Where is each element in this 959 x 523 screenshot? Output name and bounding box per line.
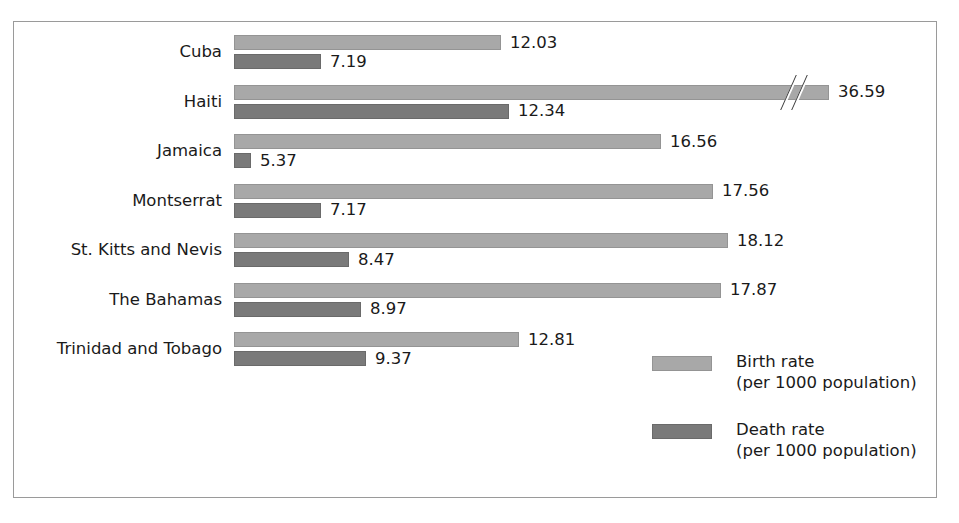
bar-row: Jamaica16.565.37: [14, 134, 936, 168]
bar-birth-rate[interactable]: [234, 134, 661, 149]
bar-value-label: 16.56: [670, 134, 717, 151]
bar-value-label: 7.19: [330, 54, 367, 71]
bar-value-label: 12.81: [528, 332, 575, 349]
bar-row: Haiti36.5912.34: [14, 85, 936, 119]
category-label-st-kitts-and-nevis: St. Kitts and Nevis: [71, 242, 222, 259]
bar-value-label: 17.56: [722, 183, 769, 200]
legend-swatch-birth-rate: [652, 356, 712, 371]
bar-value-label: 12.03: [510, 35, 557, 52]
bar-value-label: 7.17: [330, 202, 367, 219]
bar-value-label: 18.12: [737, 233, 784, 250]
bar-value-label: 9.37: [375, 351, 412, 368]
legend-label-death-rate: Death rate (per 1000 population): [736, 419, 917, 461]
bar-row: St. Kitts and Nevis18.128.47: [14, 233, 936, 267]
bar-birth-rate[interactable]: [234, 184, 713, 199]
bar-death-rate[interactable]: [234, 153, 251, 168]
chart-frame: Cuba12.037.19Haiti36.5912.34Jamaica16.56…: [13, 21, 937, 498]
legend-label-birth-rate-unit: (per 1000 population): [736, 372, 917, 393]
legend-swatch-death-rate: [652, 424, 712, 439]
bar-death-rate[interactable]: [234, 54, 321, 69]
category-label-jamaica: Jamaica: [157, 143, 222, 160]
bar-birth-rate[interactable]: [234, 283, 721, 298]
category-label-haiti: Haiti: [184, 94, 222, 111]
bar-birth-rate[interactable]: [234, 35, 501, 50]
bar-value-label: 12.34: [518, 103, 565, 120]
bar-birth-rate[interactable]: [234, 332, 519, 347]
bar-birth-rate[interactable]: [234, 233, 728, 248]
legend-label-death-rate-title: Death rate: [736, 419, 917, 440]
bar-death-rate[interactable]: [234, 351, 366, 366]
bar-birth-rate[interactable]: [234, 85, 829, 100]
bar-row: Cuba12.037.19: [14, 35, 936, 69]
category-label-montserrat: Montserrat: [132, 193, 222, 210]
category-label-trinidad-and-tobago: Trinidad and Tobago: [57, 341, 222, 358]
bar-death-rate[interactable]: [234, 203, 321, 218]
category-label-the-bahamas: The Bahamas: [109, 292, 222, 309]
bar-value-label: 5.37: [260, 153, 297, 170]
legend-label-birth-rate: Birth rate (per 1000 population): [736, 351, 917, 393]
legend-label-death-rate-unit: (per 1000 population): [736, 440, 917, 461]
bar-death-rate[interactable]: [234, 104, 509, 119]
bar-row: The Bahamas17.878.97: [14, 283, 936, 317]
category-label-cuba: Cuba: [179, 44, 222, 61]
bar-value-label: 17.87: [730, 282, 777, 299]
bar-death-rate[interactable]: [234, 302, 361, 317]
bar-value-label: 36.59: [838, 84, 885, 101]
bar-row: Montserrat17.567.17: [14, 184, 936, 218]
legend-label-birth-rate-title: Birth rate: [736, 351, 917, 372]
bar-value-label: 8.97: [370, 301, 407, 318]
bar-value-label: 8.47: [358, 252, 395, 269]
bar-death-rate[interactable]: [234, 252, 349, 267]
